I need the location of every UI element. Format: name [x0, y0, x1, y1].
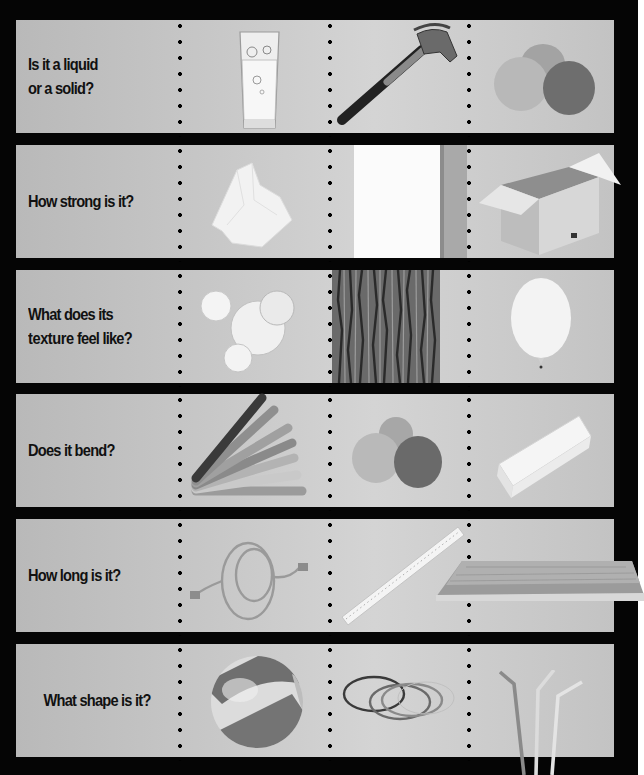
question-label: How long is it?	[28, 519, 154, 632]
question-text: Does it bend?	[28, 439, 154, 463]
cardboard-box-image	[471, 145, 614, 258]
question-text: How strong is it?	[28, 190, 154, 214]
row-liquid-or-solid: Is it a liquid or a solid?	[16, 20, 614, 133]
row-does-it-bend: Does it bend?	[16, 394, 614, 507]
balloon-image	[471, 270, 614, 383]
question-bold-word: texture	[28, 329, 74, 348]
question-line-2: or a solid?	[28, 79, 93, 98]
eraser-image	[471, 394, 614, 507]
question-line-1: What does its	[28, 305, 113, 324]
worksheet-board: Is it a liquid or a solid?	[0, 0, 638, 775]
tissue-paper-image	[182, 145, 328, 258]
sheet-of-paper-image	[332, 145, 467, 258]
play-dough-balls-image	[471, 20, 614, 133]
row-how-strong: How strong is it?	[16, 145, 614, 258]
soap-bubbles-image	[182, 270, 328, 383]
play-dough-balls-image	[332, 394, 467, 507]
question-label: What shape is it?	[28, 644, 154, 757]
tree-bark-image	[332, 270, 467, 383]
question-label: Does it bend?	[28, 394, 154, 507]
question-line-2-rest: feel like?	[74, 329, 132, 348]
row-texture: What does its texture feel like?	[16, 270, 614, 383]
question-label: How strong is it?	[28, 145, 154, 258]
beach-ball-image	[182, 644, 328, 757]
question-text: What shape is it?	[43, 689, 153, 713]
craft-sticks-image	[182, 394, 328, 507]
wooden-plank-image	[436, 559, 644, 601]
drinking-straws-image	[494, 670, 584, 775]
hammer-image	[332, 20, 467, 133]
question-text: How long is it?	[28, 564, 154, 588]
question-label: Is it a liquid or a solid?	[28, 20, 154, 133]
dotted-divider	[467, 640, 471, 761]
rubber-bands-image	[332, 644, 467, 757]
question-label: What does its texture feel like?	[28, 270, 154, 383]
glass-of-water-image	[182, 20, 328, 133]
rope-image	[182, 519, 328, 632]
question-line-1: Is it a liquid	[28, 55, 98, 74]
